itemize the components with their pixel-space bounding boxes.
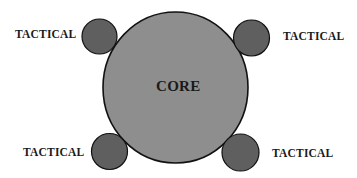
tactical-label-bottom-right: TACTICAL <box>272 148 333 160</box>
tactical-label-bottom-left: TACTICAL <box>23 147 84 159</box>
tactical-label-top-right: TACTICAL <box>283 31 344 43</box>
tactical-circle-top-right <box>234 20 270 56</box>
tactical-circle-bottom-right <box>222 134 259 171</box>
tactical-circle-bottom-left <box>92 134 128 170</box>
core-tactical-diagram: CORE TACTICAL TACTICAL TACTICAL TACTICAL <box>0 0 357 178</box>
tactical-label-top-left: TACTICAL <box>15 29 76 41</box>
core-label: CORE <box>156 79 201 94</box>
tactical-circle-top-left <box>82 19 117 54</box>
